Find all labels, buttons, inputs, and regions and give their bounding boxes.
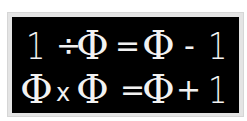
eq2-phi-3: Φ <box>142 69 175 109</box>
eq2-phi-2: Φ <box>76 69 109 109</box>
eq1-phi-1: Φ <box>76 25 109 65</box>
eq1-term-4: 1 <box>208 27 227 65</box>
eq1-phi-2: Φ <box>142 25 175 65</box>
equation-panel: 1 ÷ Φ = Φ - 1 Φ x Φ = Φ + 1 <box>12 17 239 113</box>
eq1-equals-sign: = <box>115 31 140 61</box>
equation-2: Φ x Φ = Φ + 1 <box>12 67 239 111</box>
eq2-multiply-sign: x <box>56 81 70 105</box>
eq1-minus-sign: - <box>184 31 195 61</box>
eq2-plus-sign: + <box>176 75 201 105</box>
eq1-term-1: 1 <box>26 27 45 65</box>
eq2-phi-1: Φ <box>20 69 53 109</box>
eq2-term-4: 1 <box>208 71 227 109</box>
equation-1: 1 ÷ Φ = Φ - 1 <box>12 23 239 67</box>
